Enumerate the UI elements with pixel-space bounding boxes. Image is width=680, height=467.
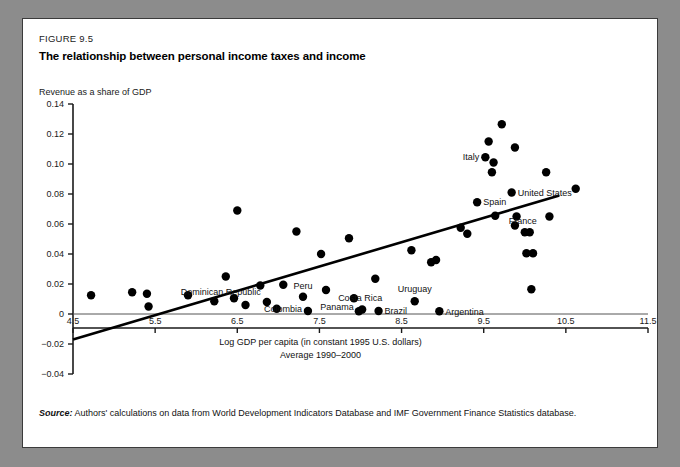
data-point [511, 143, 519, 151]
data-point [128, 288, 136, 296]
data-point [491, 212, 499, 220]
point-label: Dominican Republic [181, 287, 262, 297]
point-label: Brazil [385, 306, 408, 316]
data-point [489, 158, 497, 166]
point-label: Argentina [445, 307, 484, 317]
x-tick-label: 7.5 [313, 316, 326, 326]
figure-card: FIGURE 9.5 The relationship between pers… [22, 18, 658, 448]
point-label: Panama [320, 302, 354, 312]
point-label: Colombia [264, 304, 302, 314]
data-labels-group: Dominican RepublicPeruColombiaPanamaCost… [181, 152, 572, 316]
data-point [484, 137, 492, 145]
x-tick-label: 4.5 [67, 316, 80, 326]
plot-svg: 0.140.120.100.080.060.040.020−0.02−0.044… [23, 19, 659, 449]
data-point [473, 198, 481, 206]
x-tick-label: 8.5 [395, 316, 408, 326]
data-point [371, 275, 379, 283]
point-label: France [509, 216, 537, 226]
x-tick-label: 11.5 [640, 316, 657, 326]
x-tick-label: 9.5 [477, 316, 490, 326]
y-tick-label: 0.08 [46, 189, 64, 199]
point-label: Peru [293, 281, 312, 291]
data-point [299, 293, 307, 301]
data-point [233, 206, 241, 214]
point-label: Italy [463, 152, 480, 162]
data-point [292, 227, 300, 235]
data-point [411, 297, 419, 305]
data-point [529, 249, 537, 257]
y-tick-label: −0.04 [41, 369, 64, 379]
y-tick-label: 0.10 [46, 159, 64, 169]
data-point [317, 250, 325, 258]
y-tick-label: 0 [59, 309, 64, 319]
data-point [572, 185, 580, 193]
data-point [507, 188, 515, 196]
data-point [322, 286, 330, 294]
x-axis-title-line1: Log GDP per capita (in constant 1995 U.S… [219, 337, 421, 347]
data-point [527, 285, 535, 293]
data-point [432, 256, 440, 264]
data-point [210, 297, 218, 305]
x-tick-label: 10.5 [557, 316, 575, 326]
data-point [143, 290, 151, 298]
data-point [545, 212, 553, 220]
y-tick-label: −0.02 [41, 339, 64, 349]
data-point [457, 224, 465, 232]
data-point [526, 228, 534, 236]
x-axis-title-line2: Average 1990–2000 [280, 350, 361, 360]
section-divider [35, 397, 646, 398]
point-label: Spain [483, 197, 506, 207]
data-point [481, 153, 489, 161]
scatter-plot: 0.140.120.100.080.060.040.020−0.02−0.044… [23, 19, 659, 449]
data-point [304, 307, 312, 315]
source-note: Source: Authors' calculations on data fr… [39, 408, 644, 418]
point-label: Uruguay [398, 284, 433, 294]
data-point [435, 307, 443, 315]
point-label: United States [518, 188, 573, 198]
point-label: Costa Rica [338, 293, 382, 303]
source-label: Source: [39, 408, 73, 418]
data-point [374, 307, 382, 315]
data-point [542, 168, 550, 176]
data-point [358, 305, 366, 313]
data-point [345, 234, 353, 242]
data-point [279, 281, 287, 289]
y-tick-label: 0.02 [46, 279, 64, 289]
data-point [488, 168, 496, 176]
data-point [498, 120, 506, 128]
data-points-group [87, 120, 580, 315]
data-point [407, 246, 415, 254]
data-point [463, 230, 471, 238]
x-tick-label: 6.5 [231, 316, 244, 326]
data-point [87, 291, 95, 299]
data-point [241, 301, 249, 309]
y-tick-label: 0.12 [46, 129, 64, 139]
y-tick-label: 0.04 [46, 249, 64, 259]
data-point [144, 302, 152, 310]
source-text: Authors' calculations on data from World… [75, 408, 577, 418]
y-tick-label: 0.14 [46, 99, 64, 109]
y-tick-label: 0.06 [46, 219, 64, 229]
data-point [222, 272, 230, 280]
